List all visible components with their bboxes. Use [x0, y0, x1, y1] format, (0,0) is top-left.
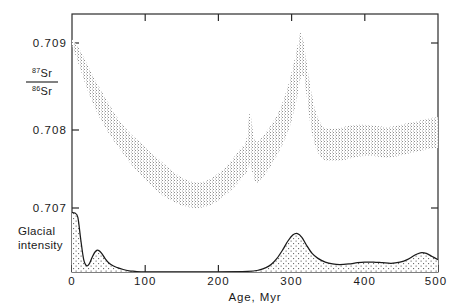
y-tick-label-1: 0.708 [33, 124, 67, 136]
x-tick-label-3: 300 [280, 275, 303, 287]
x-tick-label-2: 200 [207, 275, 230, 287]
sup-86: 86 [32, 84, 41, 93]
x-tick-label-1: 100 [134, 275, 157, 287]
glacial-intensity-label-line1: Glacial [18, 225, 55, 237]
glacial-intensity-label-line2: intensity [18, 239, 63, 251]
x-tick-label-0: 0 [68, 275, 76, 287]
sr-isotope-chart: 0.709 0.708 0.707 87Sr 86Sr 0 100 200 30… [0, 0, 459, 308]
x-tick-label-4: 400 [354, 275, 377, 287]
el-sr-den: Sr [41, 85, 53, 97]
x-tick-label-5: 500 [425, 275, 448, 287]
sup-87: 87 [32, 66, 41, 75]
el-sr-num: Sr [41, 67, 53, 79]
figure-root: 0.709 0.708 0.707 87Sr 86Sr 0 100 200 30… [0, 0, 459, 308]
y-tick-label-0: 0.709 [33, 37, 67, 49]
y-tick-label-2: 0.707 [33, 202, 67, 214]
x-axis-label: Age, Myr [228, 291, 281, 303]
